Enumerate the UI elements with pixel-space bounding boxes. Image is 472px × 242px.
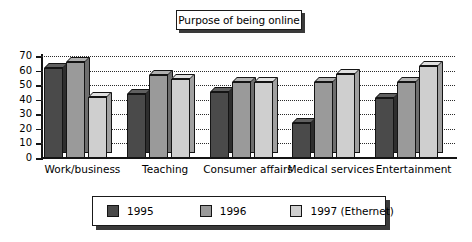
y-axis-tick-label: 30 (2, 109, 32, 119)
bar (419, 66, 438, 158)
chart-title: Purpose of being online (176, 10, 302, 30)
bar-front-face (292, 123, 311, 158)
bar-side-face (438, 61, 443, 153)
bar (254, 82, 273, 158)
bar (336, 74, 355, 159)
legend-label: 1997 (Ethernet) (310, 205, 393, 217)
bar (88, 97, 107, 158)
bar (127, 94, 146, 158)
bar-side-face (355, 69, 360, 154)
bar-front-face (254, 82, 273, 158)
legend-item[interactable]: 1997 (Ethernet) (290, 205, 393, 217)
bar-front-face (419, 66, 438, 158)
bar (397, 82, 416, 158)
bar-side-face (107, 92, 112, 153)
legend: 199519961997 (Ethernet) (92, 196, 386, 226)
bar-front-face (44, 68, 63, 158)
bar-front-face (397, 82, 416, 158)
y-axis-tick (36, 158, 42, 160)
legend-swatch-icon (290, 205, 302, 217)
y-axis-tick-label: 40 (2, 95, 32, 105)
bar-front-face (336, 74, 355, 159)
legend-label: 1995 (127, 205, 154, 217)
legend-item[interactable]: 1995 (107, 205, 154, 217)
bar-side-face (273, 77, 278, 153)
y-axis-tick-label: 0 (2, 153, 32, 163)
chart-title-container: Purpose of being online (176, 10, 302, 30)
bar (171, 79, 190, 158)
legend-label: 1996 (220, 205, 247, 217)
bar (44, 68, 63, 158)
legend-swatch-icon (107, 205, 119, 217)
y-axis-tick-label: 20 (2, 124, 32, 134)
bar-front-face (88, 97, 107, 158)
bar-front-face (149, 75, 168, 158)
legend-swatch-icon (200, 205, 212, 217)
bar-front-face (232, 82, 251, 158)
bar (149, 75, 168, 158)
legend-item[interactable]: 1996 (200, 205, 247, 217)
y-axis-tick-label: 10 (2, 138, 32, 148)
bar (210, 92, 229, 158)
bar-front-face (210, 92, 229, 158)
x-axis-category-label: Entertainment (364, 163, 463, 175)
chart-container: Purpose of being online 010203040506070 … (0, 0, 472, 242)
bar-front-face (314, 82, 333, 158)
bar (375, 98, 394, 158)
plot-area (41, 56, 455, 158)
bar-front-face (127, 94, 146, 158)
bar (292, 123, 311, 158)
bar (314, 82, 333, 158)
bar-front-face (375, 98, 394, 158)
bar-side-face (190, 74, 195, 153)
bar (66, 62, 85, 158)
bar-front-face (66, 62, 85, 158)
bar (232, 82, 251, 158)
bar-front-face (171, 79, 190, 158)
y-axis-tick-label: 50 (2, 80, 32, 90)
legend-container: 199519961997 (Ethernet) (92, 196, 386, 226)
y-axis-tick-label: 70 (2, 51, 32, 61)
y-axis-tick-label: 60 (2, 66, 32, 76)
